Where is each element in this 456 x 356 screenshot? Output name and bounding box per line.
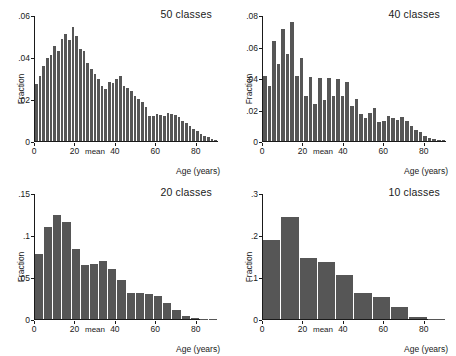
histogram-bar: [154, 296, 163, 319]
y-tick-label: .2: [251, 231, 258, 241]
y-tick-mark: [259, 48, 262, 49]
histogram-bar: [300, 258, 318, 319]
x-tick-label: 20: [70, 146, 79, 156]
x-tick-label: 0: [32, 146, 37, 156]
histogram-bar: [44, 227, 53, 320]
histogram-bar: [263, 240, 281, 319]
y-tick-mark: [259, 194, 262, 195]
panel-50-classes: 50 classes Fraction Age (years) mean 0.0…: [0, 0, 228, 178]
bar-series: [35, 194, 218, 319]
mean-annotation: mean: [313, 147, 333, 156]
panel-20-classes: 20 classes Fraction Age (years) mean 0.0…: [0, 178, 228, 356]
x-tick-mark: [262, 143, 263, 146]
x-tick-label: 40: [110, 146, 119, 156]
histogram-bar: [62, 222, 71, 319]
y-tick-label: 0: [253, 137, 258, 147]
y-tick-label: .06: [18, 11, 30, 21]
panel-10-classes: 10 classes Fraction Age (years) mean 0.1…: [228, 178, 456, 356]
y-tick-mark: [259, 236, 262, 237]
histogram-bar: [191, 318, 200, 319]
x-tick-mark: [196, 143, 197, 146]
x-tick-label: 80: [191, 324, 200, 334]
x-axis-spine: [262, 141, 446, 142]
y-tick-mark: [31, 194, 34, 195]
x-tick-mark: [74, 321, 75, 324]
x-tick-mark: [155, 143, 156, 146]
histogram-bar: [214, 140, 218, 141]
y-tick-label: 0: [25, 315, 30, 325]
x-tick-label: 60: [151, 324, 160, 334]
x-tick-label: 0: [260, 146, 265, 156]
x-tick-label: 60: [379, 324, 388, 334]
y-tick-label: .02: [18, 95, 30, 105]
x-tick-label: 80: [191, 146, 200, 156]
x-axis-label: Age (years): [404, 344, 448, 354]
y-tick-label: .1: [251, 273, 258, 283]
y-tick-mark: [259, 111, 262, 112]
y-tick-label: .08: [246, 11, 258, 21]
histogram-figure: 50 classes Fraction Age (years) mean 0.0…: [0, 0, 456, 356]
x-tick-mark: [155, 321, 156, 324]
y-tick-label: .06: [246, 43, 258, 53]
histogram-bar: [182, 316, 191, 320]
mean-annotation: mean: [85, 147, 105, 156]
histogram-bar: [35, 254, 44, 319]
x-axis-label: Age (years): [404, 166, 448, 176]
x-tick-mark: [34, 143, 35, 146]
y-tick-label: .04: [246, 74, 258, 84]
x-tick-mark: [302, 143, 303, 146]
x-tick-mark: [196, 321, 197, 324]
histogram-bar: [336, 275, 354, 319]
histogram-bar: [172, 310, 181, 319]
x-axis-label: Age (years): [176, 344, 220, 354]
y-tick-label: .15: [18, 189, 30, 199]
histogram-bar: [108, 269, 117, 319]
x-tick-mark: [424, 143, 425, 146]
y-tick-label: .04: [18, 53, 30, 63]
mean-annotation: mean: [313, 325, 333, 334]
x-tick-mark: [34, 321, 35, 324]
x-tick-label: 80: [419, 146, 428, 156]
bar-series: [263, 194, 446, 319]
y-tick-mark: [31, 236, 34, 237]
y-tick-label: 0: [25, 137, 30, 147]
x-tick-label: 60: [151, 146, 160, 156]
x-tick-mark: [115, 321, 116, 324]
x-tick-label: 0: [260, 324, 265, 334]
plot-area: 0.05.1.15020406080: [34, 194, 218, 320]
histogram-bar: [442, 140, 447, 141]
y-tick-label: .05: [18, 273, 30, 283]
y-tick-label: .02: [246, 106, 258, 116]
x-tick-mark: [262, 321, 263, 324]
histogram-bar: [117, 280, 126, 319]
mean-annotation: mean: [85, 325, 105, 334]
histogram-bar: [99, 261, 108, 319]
y-tick-mark: [31, 100, 34, 101]
x-tick-label: 0: [32, 324, 37, 334]
x-axis-spine: [34, 319, 218, 320]
panel-40-classes: 40 classes Fraction Age (years) mean 0.0…: [228, 0, 456, 178]
x-tick-mark: [383, 143, 384, 146]
x-tick-label: 40: [338, 146, 347, 156]
y-tick-label: .1: [23, 231, 30, 241]
x-tick-label: 80: [419, 324, 428, 334]
histogram-bar: [81, 265, 90, 319]
x-tick-mark: [302, 321, 303, 324]
x-tick-mark: [343, 321, 344, 324]
x-tick-label: 20: [298, 324, 307, 334]
x-tick-mark: [424, 321, 425, 324]
histogram-bar: [72, 249, 81, 319]
histogram-bar: [53, 215, 62, 319]
x-axis-label: Age (years): [176, 166, 220, 176]
histogram-bar: [391, 307, 409, 319]
histogram-bar: [136, 293, 145, 319]
histogram-bar: [318, 262, 336, 320]
x-tick-mark: [74, 143, 75, 146]
y-tick-mark: [31, 58, 34, 59]
y-tick-label: 0: [253, 315, 258, 325]
y-tick-mark: [31, 278, 34, 279]
x-tick-mark: [383, 321, 384, 324]
histogram-bar: [281, 217, 299, 319]
histogram-bar: [145, 294, 154, 319]
plot-area: 0.02.04.06020406080: [34, 16, 218, 142]
